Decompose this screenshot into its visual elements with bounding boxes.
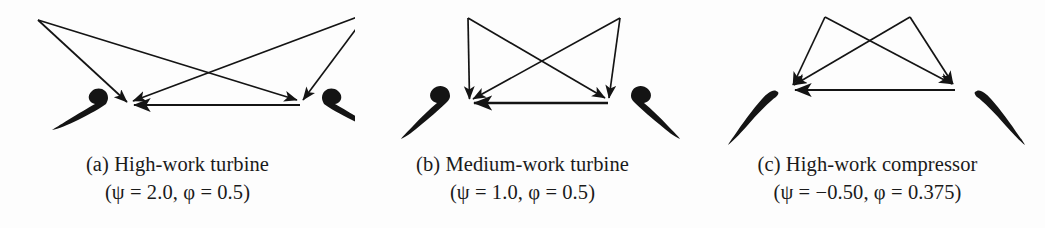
caption-a-line1: (a) High-work turbine (0, 150, 355, 178)
diagram-b (355, 0, 690, 148)
caption-c-line2: (ψ = −0.50, φ = 0.375) (690, 178, 1045, 206)
vector-right-axial (609, 18, 620, 98)
vector-left-relative-inlet (38, 20, 127, 102)
caption-a: (a) High-work turbine (ψ = 2.0, φ = 0.5) (0, 150, 355, 207)
caption-a-line2: (ψ = 2.0, φ = 0.5) (0, 178, 355, 206)
panel-high-work-turbine: (a) High-work turbine (ψ = 2.0, φ = 0.5) (0, 0, 355, 228)
vector-left-absolute (825, 17, 952, 84)
vector-right-absolute (133, 13, 355, 101)
diagram-a-svg (0, 0, 355, 148)
caption-b-line1: (b) Medium-work turbine (355, 150, 690, 178)
vector-right-absolute (473, 18, 620, 99)
vector-right-relative-inlet (303, 13, 355, 100)
caption-c: (c) High-work compressor (ψ = −0.50, φ =… (690, 150, 1045, 207)
blade-profile-left (728, 90, 778, 145)
blade-profile-left (52, 89, 108, 130)
blade-profile-right (975, 90, 1025, 145)
diagram-b-svg (355, 0, 690, 148)
blade-profile-right (631, 86, 680, 139)
diagram-a (0, 0, 355, 148)
panel-high-work-compressor: (c) High-work compressor (ψ = −0.50, φ =… (690, 0, 1045, 228)
vector-left-relative (793, 17, 825, 85)
vector-left-axial (468, 18, 470, 99)
blade-profile-right (322, 89, 355, 130)
vector-right-absolute (794, 17, 910, 85)
velocity-triangle-figure: (a) High-work turbine (ψ = 2.0, φ = 0.5) (0, 0, 1045, 228)
panel-medium-work-turbine: (b) Medium-work turbine (ψ = 1.0, φ = 0.… (355, 0, 690, 228)
diagram-c-svg (690, 0, 1045, 148)
caption-b-line2: (ψ = 1.0, φ = 0.5) (355, 178, 690, 206)
caption-c-line1: (c) High-work compressor (690, 150, 1045, 178)
caption-b: (b) Medium-work turbine (ψ = 1.0, φ = 0.… (355, 150, 690, 207)
diagram-c (690, 0, 1045, 148)
blade-profile-left (401, 86, 450, 139)
vector-left-absolute (468, 18, 605, 98)
